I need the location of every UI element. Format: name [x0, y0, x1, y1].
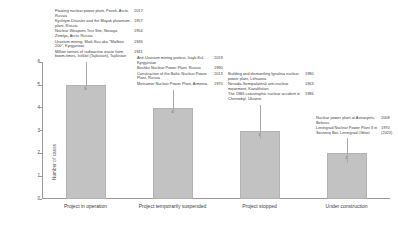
y-tick-mark-1	[40, 176, 42, 177]
y-tick-label-6: 6	[26, 60, 40, 65]
y-tick-label-3: 3	[26, 128, 40, 133]
callout-entry-text: Nuclear Weapons Test Site, Novaya Zemlya…	[55, 29, 134, 38]
y-tick-mark-5	[40, 85, 42, 86]
callout-entry: Million tonnes of radioactive waste from…	[55, 50, 145, 59]
callout-entry-text: Kyshtym Disaster and the Mayak plutonium…	[55, 19, 134, 28]
callout-project-in-operation: Floating nuclear power plant, Pevek, Arc…	[55, 9, 145, 60]
x-axis-label-project-temporarily-suspended: Project temporarily suspended	[129, 204, 216, 210]
bar-project-in-operation: 5	[66, 85, 106, 199]
y-axis-line	[42, 62, 43, 199]
callout-entry-year: 1980	[305, 72, 316, 77]
callout-entry: The 1986 catastrophic nuclear accident i…	[228, 92, 316, 101]
callout-entry-text: Metsamor Nuclear Power Plant, Armenia	[137, 82, 214, 87]
callout-entry: Leningrad Nuclear Power Plant II in Sosn…	[316, 126, 394, 135]
callout-entry: Building and dismantling Ignalina nuclea…	[228, 72, 316, 81]
callout-entry-text: Million tonnes of radioactive waste from…	[55, 50, 134, 59]
callout-entry: Anti-Uranium mining protest, Issyk-Kul, …	[137, 56, 225, 65]
callout-entry-year: 1957	[134, 19, 145, 24]
callout-entry-year: 1946	[134, 40, 145, 45]
y-tick-mark-3	[40, 130, 42, 131]
callout-entry: Nuclear Weapons Test Site, Novaya Zemlya…	[55, 29, 145, 38]
y-tick-label-5: 5	[26, 83, 40, 88]
y-tick-mark-2	[40, 153, 42, 154]
y-tick-mark-4	[40, 107, 42, 108]
callout-entry: Floating nuclear power plant, Pevek, Arc…	[55, 9, 145, 18]
callout-project-stopped: Building and dismantling Ignalina nuclea…	[228, 72, 316, 103]
callout-entry-year: 1954	[134, 29, 145, 34]
callout-leader-arrow-icon	[259, 138, 261, 139]
callout-project-temporarily-suspended: Anti-Uranium mining protest, Issyk-Kul, …	[137, 56, 225, 88]
y-tick-label-1: 1	[26, 174, 40, 179]
bar-project-temporarily-suspended: 4	[153, 108, 193, 199]
callout-leader-line	[173, 90, 174, 111]
y-tick-mark-6	[40, 62, 42, 63]
callout-entry-text: Floating nuclear power plant, Pevek, Arc…	[55, 9, 134, 18]
x-axis-label-project-stopped: Project stopped	[216, 204, 303, 210]
callout-under-construction: Nuclear power plant at Astravyets, Belar…	[316, 116, 394, 136]
bar-value-label: 5	[67, 87, 105, 91]
callout-entry: Kyshtym Disaster and the Mayak plutonium…	[55, 19, 145, 28]
x-axis-label-under-construction: Under construction	[303, 204, 390, 210]
y-axis-title: Number of cases	[53, 144, 58, 180]
y-tick-label-0: 0	[26, 197, 40, 202]
callout-entry-text: Uranium mining, Maili-Suu aka "Mailbox 2…	[55, 40, 134, 49]
y-tick-label-2: 2	[26, 151, 40, 156]
callout-entry: Uranium mining, Maili-Suu aka "Mailbox 2…	[55, 40, 145, 49]
callout-entry: Metsamor Nuclear Power Plant, Armenia197…	[137, 82, 225, 87]
bar-project-stopped: 3	[240, 131, 280, 200]
callout-entry-year: 2008	[381, 116, 394, 121]
callout-leader-line	[260, 105, 261, 139]
callout-entry-year: 2019	[214, 56, 225, 61]
x-axis-label-project-in-operation: Project in operation	[42, 204, 129, 210]
callout-entry-text: Anti-Uranium mining protest, Issyk-Kul, …	[137, 56, 214, 65]
callout-leader-arrow-icon	[172, 110, 174, 111]
callout-entry-year: 1970 (2020)	[381, 126, 394, 135]
callout-entry-text: Nuclear power plant at Astravyets, Belar…	[316, 116, 381, 125]
y-tick-label-4: 4	[26, 105, 40, 110]
callout-entry-year: 2013	[214, 72, 225, 77]
callout-leader-line	[347, 138, 348, 163]
callout-entry-year: 1986	[305, 92, 316, 97]
callout-entry: Nuclear power plant at Astravyets, Belar…	[316, 116, 394, 125]
y-tick-mark-0	[40, 199, 42, 200]
callout-entry-year: 1963	[305, 82, 316, 87]
callout-leader-arrow-icon	[346, 162, 348, 163]
callout-entry-text: Construction of the Baltic Nuclear Power…	[137, 72, 214, 81]
callout-entry: Construction of the Baltic Nuclear Power…	[137, 72, 225, 81]
callout-entry-text: Nevada-Semipalatinsk anti-nuclear moveme…	[228, 82, 305, 91]
callout-entry-text: Leningrad Nuclear Power Plant II in Sosn…	[316, 126, 381, 135]
callout-entry-text: Building and dismantling Ignalina nuclea…	[228, 72, 305, 81]
callout-entry: Nevada-Semipalatinsk anti-nuclear moveme…	[228, 82, 316, 91]
callout-entry-year: 1970	[214, 82, 225, 87]
callout-leader-line	[86, 62, 87, 87]
callout-entry-text: The 1986 catastrophic nuclear accident i…	[228, 92, 305, 101]
callout-entry-year: 1941	[134, 50, 145, 55]
callout-entry-year: 2017	[134, 9, 145, 14]
callout-leader-arrow-icon	[85, 86, 87, 87]
